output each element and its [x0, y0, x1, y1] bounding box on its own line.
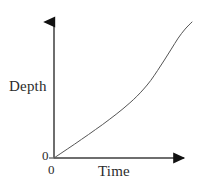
y-axis-label: Depth — [9, 78, 47, 95]
chart-figure: Depth Time 0 0 — [0, 0, 202, 185]
data-series-curve — [54, 22, 192, 158]
x-axis-origin-tick-label: 0 — [48, 162, 55, 178]
x-axis-label: Time — [98, 163, 130, 180]
